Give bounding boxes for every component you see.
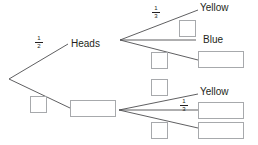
prob-heads-yellow: 1 3 <box>152 5 160 19</box>
label-heads: Heads <box>71 39 100 49</box>
answer-box-tails-second-label[interactable] <box>198 102 244 119</box>
answer-box-tails-yellow-probability[interactable] <box>151 79 168 96</box>
prob-heads-den: 2 <box>35 43 43 50</box>
prob-tails-yellow-den: 3 <box>180 106 188 113</box>
label-heads-yellow: Yellow <box>200 3 229 13</box>
answer-box-heads-blue-probability[interactable] <box>179 20 196 37</box>
prob-heads-num: 1 <box>35 35 43 43</box>
prob-heads-yellow-den: 3 <box>152 13 160 20</box>
answer-box-tails-third-probability[interactable] <box>151 122 168 139</box>
prob-heads-yellow-num: 1 <box>152 5 160 13</box>
prob-heads: 1 2 <box>35 35 43 49</box>
answer-box-tails-label[interactable] <box>70 100 116 117</box>
answer-box-tails-probability[interactable] <box>30 96 47 113</box>
answer-box-heads-third-probability[interactable] <box>151 52 168 69</box>
label-heads-blue: Blue <box>203 35 223 45</box>
prob-tails-yellow-num: 1 <box>180 98 188 106</box>
answer-box-heads-third-label[interactable] <box>198 51 244 68</box>
answer-box-tails-third-label[interactable] <box>198 122 244 139</box>
prob-tails-yellow: 1 3 <box>180 98 188 112</box>
label-tails-yellow: Yellow <box>200 87 229 97</box>
branch-heads <box>9 44 68 79</box>
